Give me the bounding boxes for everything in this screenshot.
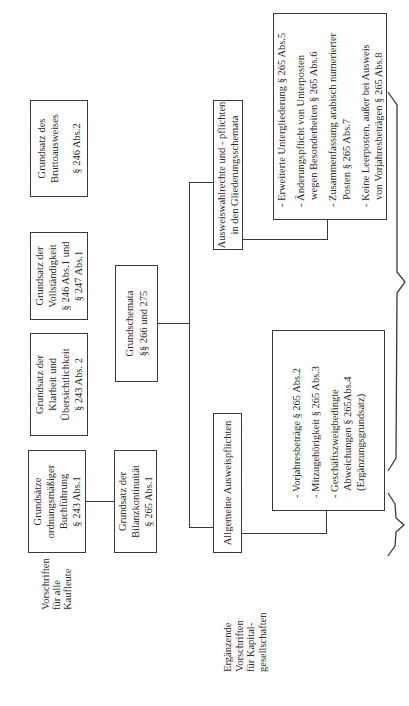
label-vorschriften-alle-kaufleute: Vorschriften für alle Kaufleute: [40, 530, 62, 610]
label-ergaenzende-vorschriften: Ergänzende Vorschriften für Kapital- ges…: [222, 582, 268, 672]
label-line: Vorschriften: [234, 582, 246, 672]
label-line: gesellschaften: [257, 582, 269, 672]
label-line: für alle: [51, 530, 62, 610]
label-line: für Kapital-: [245, 582, 257, 672]
label-line: Vorschriften: [40, 530, 51, 610]
label-line: Kaufleute: [62, 530, 73, 610]
label-line: Ergänzende: [222, 582, 234, 672]
